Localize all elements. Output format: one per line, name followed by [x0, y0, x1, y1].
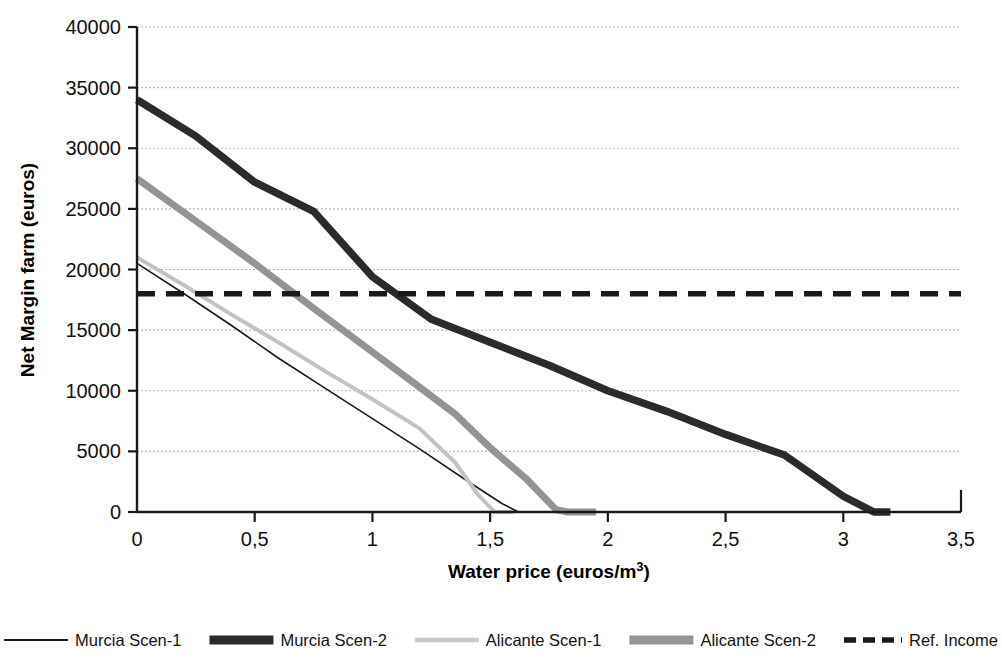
y-tick-label-20000: 20000 [65, 259, 121, 281]
legend-label: Alicante Scen-1 [486, 631, 602, 649]
x-tick-label-0: 0 [131, 528, 142, 550]
y-tick-label-40000: 40000 [65, 16, 121, 38]
y-tick-label-15000: 15000 [65, 319, 121, 341]
x-tick-label-1: 1 [367, 528, 378, 550]
x-tick-label-2-5: 2,5 [712, 528, 740, 550]
x-tick-label-3: 3 [838, 528, 849, 550]
x-axis-title: Water price (euros/m3) [448, 559, 650, 582]
y-tick-label-25000: 25000 [65, 198, 121, 220]
x-tick-label-0-5: 0,5 [241, 528, 269, 550]
legend-label: Alicante Scen-2 [700, 631, 816, 649]
y-tick-label-10000: 10000 [65, 380, 121, 402]
y-axis-title: Net Margin farm (euros) [17, 163, 38, 377]
x-tick-label-1-5: 1,5 [476, 528, 504, 550]
y-tick-label-35000: 35000 [65, 77, 121, 99]
legend-label: Murcia Scen-1 [75, 631, 181, 649]
x-tick-label-3-5: 3,5 [947, 528, 975, 550]
legend-label: Ref. Income [909, 631, 998, 649]
y-tick-label-30000: 30000 [65, 137, 121, 159]
x-tick-label-2: 2 [602, 528, 613, 550]
legend-label: Murcia Scen-2 [280, 631, 386, 649]
y-tick-label-0: 0 [110, 501, 121, 523]
net-margin-line-chart: 0500010000150002000025000300003500040000… [0, 0, 1002, 668]
y-tick-label-5000: 5000 [77, 440, 122, 462]
chart-container: 0500010000150002000025000300003500040000… [0, 0, 1002, 668]
